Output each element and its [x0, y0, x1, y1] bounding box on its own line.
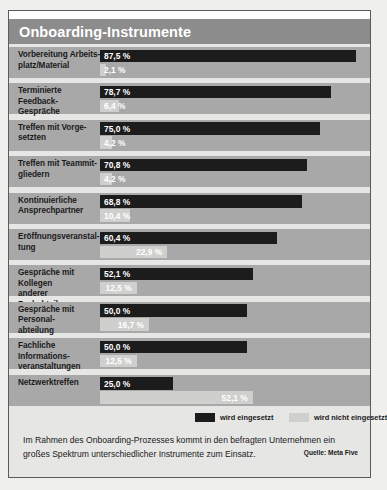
- row-category-label-line2: Gespräche: [18, 107, 102, 118]
- legend-item-not-used: wird nicht eingesetzt: [289, 413, 387, 422]
- bar-value-used: 52,1 %: [104, 269, 130, 281]
- row-category-label-line2: gliedern: [18, 170, 102, 181]
- row-category-label: Treffen mit Vorge-setzten: [18, 123, 102, 144]
- bar-value-used: 87,5 %: [104, 51, 130, 63]
- bar-value-not-used: 4,2 %: [104, 174, 125, 186]
- bar-value-used: 50,0 %: [104, 342, 130, 354]
- legend-swatch-used: [195, 413, 215, 422]
- bar-value-not-used: 12,5 %: [100, 356, 132, 368]
- bar-used: [100, 50, 356, 63]
- bar-value-used: 25,0 %: [104, 379, 130, 391]
- row-category-label-line2: tung: [18, 243, 102, 254]
- row-category-label-line2: veranstaltungen: [18, 362, 102, 373]
- chart-title-bar: Onboarding-Instrumente: [9, 19, 370, 44]
- chart-row: Vorbereitung Arbeits-platz/Material87,5 …: [9, 47, 370, 78]
- legend-swatch-not-used: [289, 413, 309, 422]
- row-category-label-line2: abteilung: [18, 326, 102, 337]
- chart-row: Treffen mit Vorge-setzten75,0 %4,2 %: [9, 120, 370, 151]
- bar-value-used: 50,0 %: [104, 306, 130, 318]
- footer-source: Quelle: Meta Five: [304, 449, 358, 456]
- chart-row: Gespräche mit Personal-abteilung50,0 %16…: [9, 302, 370, 333]
- row-category-label-line1: Fachliche Informations-: [18, 341, 102, 362]
- row-category-label-line1: Treffen mit Vorge-: [18, 123, 102, 134]
- row-category-label-line2: platz/Material: [18, 61, 102, 72]
- bar-used: [100, 159, 307, 172]
- chart-legend: wird eingesetzt wird nicht eingesetzt: [9, 409, 370, 427]
- row-category-label: Gespräche mit Personal-abteilung: [18, 305, 102, 337]
- chart-footer: Im Rahmen des Onboarding-Prozesses kommt…: [9, 427, 370, 477]
- row-category-label: Vorbereitung Arbeits-platz/Material: [18, 50, 102, 71]
- chart-row: Terminierte Feedback-Gespräche78,7 %6,4 …: [9, 83, 370, 114]
- footer-description: Im Rahmen des Onboarding-Prozesses kommt…: [23, 434, 343, 461]
- bar-value-not-used: 6,4 %: [104, 101, 125, 113]
- chart-row: Treffen mit Teammit-gliedern70,8 %4,2 %: [9, 156, 370, 187]
- bar-value-used: 78,7 %: [104, 87, 130, 99]
- legend-label-not-used: wird nicht eingesetzt: [314, 413, 387, 422]
- bar-value-not-used: 16,7 %: [100, 320, 144, 332]
- row-category-label-line1: Kontinuierliche: [18, 196, 102, 207]
- page-title: Onboarding-Instrumente: [9, 24, 191, 40]
- row-category-label: Eröffnungsveranstal-tung: [18, 232, 102, 253]
- bar-value-not-used: 12,5 %: [100, 283, 132, 295]
- row-category-label-line2: setzten: [18, 133, 102, 144]
- row-category-label-line1: Vorbereitung Arbeits-: [18, 50, 102, 61]
- row-category-label-line1: Terminierte Feedback-: [18, 86, 102, 107]
- row-category-label-line1: Gespräche mit Kollegen: [18, 268, 102, 289]
- bar-value-used: 70,8 %: [104, 160, 130, 172]
- chart-row: Eröffnungsveranstal-tung60,4 %22,9 %: [9, 229, 370, 260]
- bar-value-used: 60,4 %: [104, 233, 130, 245]
- chart-row: Fachliche Informations-veranstaltungen50…: [9, 338, 370, 369]
- chart-plot-area: Vorbereitung Arbeits-platz/Material87,5 …: [9, 44, 370, 409]
- bar-used: [100, 195, 302, 208]
- bar-value-not-used: 22,9 %: [100, 247, 162, 259]
- bar-value-not-used: 52,1 %: [100, 393, 248, 405]
- legend-item-used: wird eingesetzt: [195, 413, 273, 422]
- bar-used: [100, 122, 320, 135]
- bar-value-not-used: 10,4 %: [104, 211, 130, 223]
- bar-value-not-used: 2,1 %: [104, 65, 125, 77]
- row-category-label-line1: Netzwerktreffen: [18, 378, 102, 389]
- chart-row: KontinuierlicheAnsprechpartner68,8 %10,4…: [9, 193, 370, 224]
- row-category-label: Netzwerktreffen: [18, 378, 102, 389]
- legend-label-used: wird eingesetzt: [220, 413, 273, 422]
- chart-row: Netzwerktreffen25,0 %52,1 %: [9, 375, 370, 406]
- row-category-label-line1: Gespräche mit Personal-: [18, 305, 102, 326]
- row-category-label: Fachliche Informations-veranstaltungen: [18, 341, 102, 373]
- bar-value-not-used: 4,2 %: [104, 138, 125, 150]
- bar-value-used: 68,8 %: [104, 197, 130, 209]
- row-category-label-line1: Eröffnungsveranstal-: [18, 232, 102, 243]
- bar-used: [100, 86, 331, 99]
- chart-row: Gespräche mit Kollegenanderer Fachabteil…: [9, 265, 370, 296]
- row-category-label-line1: Treffen mit Teammit-: [18, 159, 102, 170]
- row-category-label: Terminierte Feedback-Gespräche: [18, 86, 102, 118]
- row-category-label: KontinuierlicheAnsprechpartner: [18, 196, 102, 217]
- row-category-label: Treffen mit Teammit-gliedern: [18, 159, 102, 180]
- bar-value-used: 75,0 %: [104, 124, 130, 136]
- row-category-label-line2: Ansprechpartner: [18, 206, 102, 217]
